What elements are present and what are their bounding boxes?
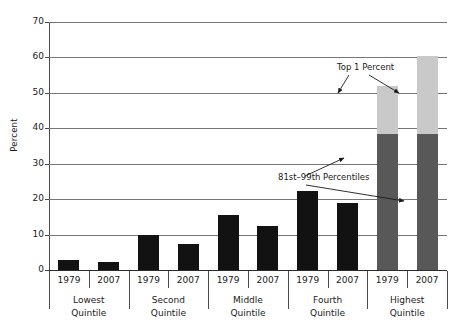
x-tick-label-year: 2007 (407, 275, 447, 285)
x-axis-group-label: HighestQuintile (367, 294, 447, 320)
x-axis-minor-separator (168, 271, 169, 288)
x-tick-label-year: 1979 (208, 275, 248, 285)
bar (138, 235, 159, 270)
group-label-line1: Fourth (288, 294, 368, 307)
bar-segment (178, 244, 199, 270)
annotation-top-1-percent: Top 1 Percent (337, 62, 394, 72)
group-label-line1: Lowest (49, 294, 129, 307)
x-axis-group-separator (208, 271, 209, 309)
x-axis-group-label: FourthQuintile (288, 294, 368, 320)
group-label-line2: Quintile (288, 307, 368, 320)
y-tick-label: 20 (22, 194, 44, 203)
y-tick-mark (45, 270, 49, 271)
y-tick-label: 10 (22, 230, 44, 239)
x-tick-label-year: 2007 (89, 275, 129, 285)
x-tick-label-year: 2007 (168, 275, 208, 285)
gridline (49, 57, 447, 58)
y-tick-mark (45, 128, 49, 129)
group-label-line1: Second (129, 294, 209, 307)
bar-segment (417, 56, 438, 134)
x-axis-minor-separator (328, 271, 329, 288)
bar-segment (377, 86, 398, 134)
bar (58, 260, 79, 270)
x-tick-label-year: 2007 (248, 275, 288, 285)
x-tick-label-year: 1979 (367, 275, 407, 285)
plot-area (49, 22, 447, 270)
bar-chart: Percent 706050403020100 19792007LowestQu… (0, 0, 469, 331)
x-axis-group-separator (367, 271, 368, 309)
x-axis-minor-separator (407, 271, 408, 288)
x-axis-group-separator (129, 271, 130, 309)
x-tick-label-year: 1979 (288, 275, 328, 285)
bar (218, 215, 239, 270)
y-tick-label: 30 (22, 159, 44, 168)
bar-segment (337, 203, 358, 270)
x-tick-label-year: 1979 (129, 275, 169, 285)
y-tick-label: 60 (22, 52, 44, 61)
bar-segment (218, 215, 239, 270)
bar-segment (417, 134, 438, 270)
bar (377, 86, 398, 270)
x-axis-group-separator (49, 271, 50, 309)
x-axis: 19792007LowestQuintile19792007SecondQuin… (49, 271, 447, 331)
bar-segment (98, 262, 119, 271)
x-axis-group-label: SecondQuintile (129, 294, 209, 320)
x-axis-group-label: LowestQuintile (49, 294, 129, 320)
group-label-line2: Quintile (129, 307, 209, 320)
x-tick-label-year: 1979 (49, 275, 89, 285)
bar (257, 226, 278, 270)
bar (337, 203, 358, 270)
bar-segment (297, 191, 318, 270)
y-tick-mark (45, 22, 49, 23)
bar-segment (377, 134, 398, 270)
y-tick-label: 40 (22, 123, 44, 132)
group-label-line1: Highest (367, 294, 447, 307)
y-tick-mark (45, 164, 49, 165)
bar-segment (257, 226, 278, 270)
bar (297, 191, 318, 270)
y-tick-mark (45, 93, 49, 94)
y-tick-mark (45, 199, 49, 200)
annotation-81st-99th-percentiles: 81st–99th Percentiles (278, 172, 369, 182)
gridline-top (49, 22, 447, 23)
y-axis-title: Percent (9, 95, 19, 175)
bar (98, 262, 119, 271)
group-label-line2: Quintile (49, 307, 129, 320)
x-axis-minor-separator (89, 271, 90, 288)
x-axis-group-label: MiddleQuintile (208, 294, 288, 320)
x-tick-label-year: 2007 (328, 275, 368, 285)
x-axis-group-separator (447, 271, 448, 309)
y-tick-label: 50 (22, 88, 44, 97)
y-tick-mark (45, 57, 49, 58)
group-label-line1: Middle (208, 294, 288, 307)
bar-segment (58, 260, 79, 270)
bar (178, 244, 199, 270)
y-axis-tick-labels: 706050403020100 (20, 0, 44, 331)
x-axis-minor-separator (248, 271, 249, 288)
bar (417, 56, 438, 270)
y-tick-mark (45, 235, 49, 236)
y-tick-label: 0 (22, 265, 44, 274)
group-label-line2: Quintile (367, 307, 447, 320)
bar-segment (138, 235, 159, 270)
y-tick-label: 70 (22, 17, 44, 26)
group-label-line2: Quintile (208, 307, 288, 320)
x-axis-group-separator (288, 271, 289, 309)
